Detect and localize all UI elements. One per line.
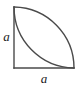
label-vertical-side: a — [1, 30, 12, 43]
label-horizontal-side: a — [38, 72, 50, 85]
inner-white-region — [14, 7, 74, 68]
geometry-figure: a a — [0, 0, 82, 87]
